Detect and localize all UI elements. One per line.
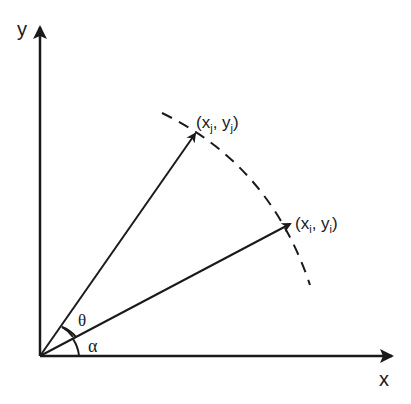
vector-rotation-diagram: y x θ α (xj, yj) (xi, yi) (0, 0, 411, 404)
y-axis-label: y (17, 18, 27, 40)
point-i-label: (xi, yi) (295, 214, 338, 235)
angle-alpha-label: α (88, 336, 98, 356)
angle-theta-label: θ (78, 311, 86, 330)
vector-i (40, 224, 290, 356)
angle-alpha-arc (73, 339, 79, 356)
vector-j (40, 134, 195, 356)
x-axis-label: x (379, 368, 389, 390)
point-j-label: (xj, yj) (196, 113, 239, 134)
dashed-arc (162, 113, 310, 285)
